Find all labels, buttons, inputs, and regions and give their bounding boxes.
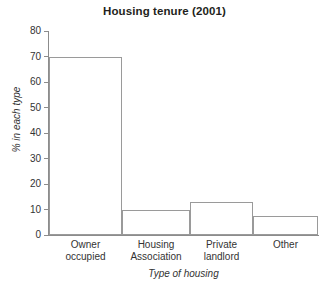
y-tick-mark — [44, 158, 48, 159]
x-axis-category-label: Privatelandlord — [190, 239, 253, 262]
y-tick-label: 70 — [30, 50, 41, 63]
y-tick-mark — [44, 209, 48, 210]
y-tick-mark — [44, 133, 48, 134]
category-label-line: Other — [253, 239, 318, 251]
chart-title: Housing tenure (2001) — [0, 5, 329, 17]
x-axis-category-label: Owneroccupied — [49, 239, 122, 262]
plot-area — [49, 31, 318, 235]
x-axis-title: Type of housing — [49, 268, 318, 279]
bar — [253, 216, 318, 235]
y-tick-label: 40 — [30, 126, 41, 139]
category-label-line: landlord — [190, 251, 253, 263]
x-axis-category-label: Other — [253, 239, 318, 251]
y-tick-mark — [44, 107, 48, 108]
y-tick-label: 30 — [30, 152, 41, 165]
y-tick-label: 60 — [30, 75, 41, 88]
housing-tenure-bar-chart: Housing tenure (2001) % in each type 010… — [0, 0, 329, 290]
category-label-line: Association — [122, 251, 190, 263]
y-axis-title: % in each type — [11, 60, 22, 180]
x-axis-line — [48, 235, 319, 236]
y-tick-mark — [44, 56, 48, 57]
category-label-line: Private — [190, 239, 253, 251]
y-tick-label: 80 — [30, 24, 41, 37]
y-tick-mark — [44, 235, 48, 236]
x-axis-category-label: HousingAssociation — [122, 239, 190, 262]
y-tick-label: 50 — [30, 101, 41, 114]
category-label-line: Housing — [122, 239, 190, 251]
category-label-line: occupied — [49, 251, 122, 263]
y-tick-mark — [44, 82, 48, 83]
bar — [122, 210, 190, 236]
y-tick-label: 0 — [35, 228, 41, 241]
bar — [49, 57, 122, 236]
y-tick-label: 10 — [30, 203, 41, 216]
y-tick-mark — [44, 184, 48, 185]
bar — [190, 202, 253, 235]
y-tick-label: 20 — [30, 177, 41, 190]
category-label-line: Owner — [49, 239, 122, 251]
y-tick-mark — [44, 31, 48, 32]
